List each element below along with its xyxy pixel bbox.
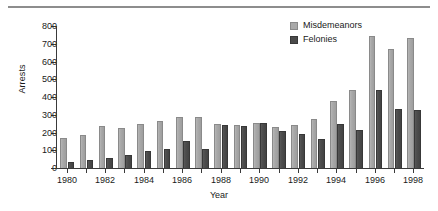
y-axis-tick-label: 600 <box>11 58 57 67</box>
bar-felonies <box>318 139 325 168</box>
x-axis-tick-label: 1992 <box>278 175 318 185</box>
bar-felonies <box>414 110 421 168</box>
bar-misdemeanors <box>99 126 106 168</box>
x-axis-tick-label: 1984 <box>124 175 164 185</box>
bar-felonies <box>356 130 363 168</box>
x-axis-tick <box>221 169 222 173</box>
bar-misdemeanors <box>349 90 356 168</box>
bar-misdemeanors <box>234 125 241 168</box>
x-axis-tick <box>336 169 337 173</box>
bar-misdemeanors <box>388 49 395 168</box>
bar-felonies <box>299 134 306 168</box>
x-axis-tick <box>163 169 164 173</box>
bar-felonies <box>260 123 267 168</box>
x-axis-tick <box>201 169 202 173</box>
bar-felonies <box>202 149 209 168</box>
bar-felonies <box>183 141 190 168</box>
bar-felonies <box>376 90 383 168</box>
bar-felonies <box>222 125 229 168</box>
x-axis-tick <box>279 169 280 173</box>
y-axis-tick-label: 700 <box>11 40 57 49</box>
legend-item-misdemeanors[interactable]: Misdemeanors <box>290 20 362 31</box>
x-axis-tick <box>259 169 260 173</box>
y-axis-tick-label: 400 <box>11 93 57 102</box>
y-axis-tick-label: 200 <box>11 129 57 138</box>
bar-misdemeanors <box>291 125 298 168</box>
y-axis-tick-label: 300 <box>11 111 57 120</box>
x-axis-tick <box>298 169 299 173</box>
bar-misdemeanors <box>330 101 337 168</box>
x-axis-label: Year <box>0 190 438 200</box>
x-axis-tick <box>413 169 414 173</box>
bar-misdemeanors <box>369 36 376 168</box>
bar-felonies <box>241 126 248 168</box>
x-axis-tick <box>67 169 68 173</box>
x-axis-tick <box>240 169 241 173</box>
y-axis-tick-label: 500 <box>11 75 57 84</box>
x-axis-tick <box>144 169 145 173</box>
bar-felonies <box>106 158 113 168</box>
bar-felonies <box>395 109 402 168</box>
bar-misdemeanors <box>407 38 414 168</box>
bar-misdemeanors <box>195 117 202 168</box>
bar-felonies <box>337 124 344 168</box>
bar-chart-figure: Arrests Year 0100200300400500600700800 1… <box>0 0 438 211</box>
x-axis-tick-label: 1998 <box>393 175 433 185</box>
x-axis-tick <box>124 169 125 173</box>
bar-misdemeanors <box>253 123 260 168</box>
bar-felonies <box>68 162 75 168</box>
bar-misdemeanors <box>60 138 67 168</box>
bar-misdemeanors <box>214 124 221 168</box>
x-axis-tick-label: 1986 <box>162 175 202 185</box>
bar-misdemeanors <box>272 127 279 168</box>
bar-felonies <box>164 149 171 168</box>
bar-felonies <box>87 160 94 168</box>
y-axis-tick-label: 100 <box>11 146 57 155</box>
bar-misdemeanors <box>311 119 318 168</box>
legend-swatch-misdemeanors <box>290 22 298 30</box>
legend-label-misdemeanors: Misdemeanors <box>303 20 362 31</box>
bar-felonies <box>125 155 132 168</box>
bar-misdemeanors <box>176 117 183 168</box>
legend-label-felonies: Felonies <box>303 34 337 45</box>
bar-misdemeanors <box>137 124 144 168</box>
bar-misdemeanors <box>118 128 125 168</box>
bar-felonies <box>145 151 152 168</box>
bar-felonies <box>279 131 286 168</box>
x-axis-tick <box>375 169 376 173</box>
legend-swatch-felonies <box>290 36 298 44</box>
x-axis-tick <box>356 169 357 173</box>
chart-legend: Misdemeanors Felonies <box>290 20 362 48</box>
x-axis-tick-label: 1990 <box>239 175 279 185</box>
y-axis-tick-label: 0 <box>11 164 57 173</box>
bar-misdemeanors <box>157 121 164 168</box>
x-axis-tick <box>105 169 106 173</box>
x-axis-tick <box>317 169 318 173</box>
x-axis-tick <box>394 169 395 173</box>
legend-item-felonies[interactable]: Felonies <box>290 34 362 45</box>
x-axis-tick-label: 1988 <box>201 175 241 185</box>
plot-area <box>57 26 423 168</box>
x-axis-tick-label: 1994 <box>316 175 356 185</box>
x-axis-tick-label: 1996 <box>355 175 395 185</box>
x-axis-tick-label: 1980 <box>47 175 87 185</box>
x-axis-tick <box>86 169 87 173</box>
y-axis-tick-label: 800 <box>11 22 57 31</box>
bar-misdemeanors <box>80 135 87 168</box>
x-axis-tick-label: 1982 <box>85 175 125 185</box>
x-axis-tick <box>182 169 183 173</box>
